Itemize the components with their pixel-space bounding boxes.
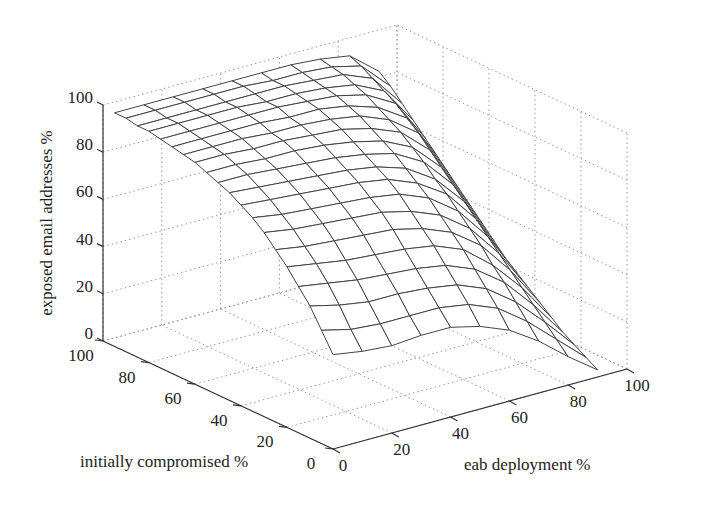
x-tick <box>451 417 458 421</box>
y-tick-label: 40 <box>211 411 228 430</box>
side-wall-grid-line <box>397 25 627 133</box>
surface-mesh <box>115 56 598 370</box>
surface-plot: 000202020404040606060808080100100100 exp… <box>0 0 705 508</box>
z-tick <box>97 291 103 294</box>
x-tick <box>568 385 575 389</box>
z-tick <box>97 244 103 247</box>
x-tick-label: 20 <box>393 440 410 459</box>
x-tick-label: 60 <box>511 408 528 427</box>
x-tick <box>509 401 516 405</box>
z-tick-label: 40 <box>76 230 93 249</box>
z-tick-label: 0 <box>85 324 94 343</box>
y-tick-label: 60 <box>165 389 182 408</box>
z-tick <box>97 149 103 152</box>
x-axis-label: eab deployment % <box>464 455 591 474</box>
x-tick-label: 40 <box>452 424 469 443</box>
x-tick-label: 100 <box>624 376 650 395</box>
z-axis-label: exposed email addresses % <box>37 130 56 316</box>
x-tick <box>333 449 340 453</box>
mesh-cell <box>557 340 598 370</box>
x-tick <box>627 369 634 373</box>
z-tick-label: 80 <box>76 135 93 154</box>
x-tick <box>392 433 399 437</box>
z-tick-label: 100 <box>68 88 94 107</box>
z-tick-label: 20 <box>76 277 93 296</box>
y-tick-label: 20 <box>257 432 274 451</box>
y-tick-label: 80 <box>119 368 136 387</box>
z-tick-label: 60 <box>76 182 93 201</box>
z-tick <box>97 196 103 199</box>
y-axis-label: initially compromised % <box>80 452 248 471</box>
floor-grid-line <box>287 347 581 427</box>
x-tick-label: 80 <box>570 392 587 411</box>
y-tick-label: 100 <box>68 346 94 365</box>
z-tick <box>97 102 103 105</box>
y-tick-label: 0 <box>307 454 316 473</box>
y-axis-line <box>103 341 333 449</box>
x-tick-label: 0 <box>339 456 348 475</box>
